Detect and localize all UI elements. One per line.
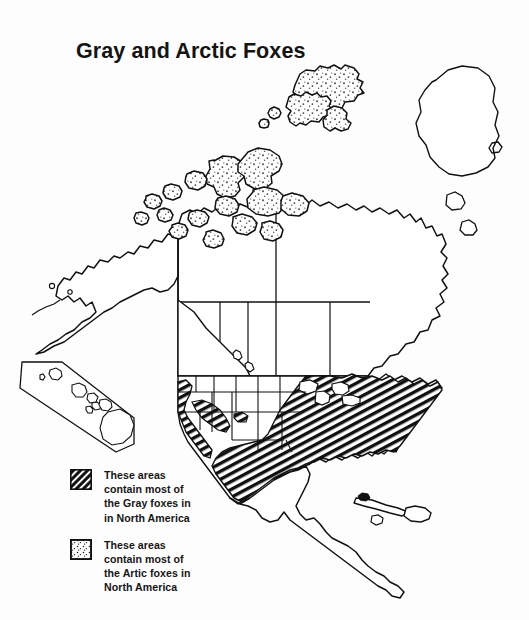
map-legend: These areas contain most of the Gray fox…	[70, 468, 280, 608]
stipple-dot-swatch	[70, 539, 92, 560]
legend-item-gray-fox: These areas contain most of the Gray fox…	[70, 468, 280, 525]
greenland-outline	[416, 66, 502, 235]
legend-label-arctic-fox: These areas contain most of the Artic fo…	[104, 538, 190, 595]
hawaii-inset	[20, 362, 134, 452]
diagonal-hatch-swatch	[70, 469, 92, 490]
legend-label-gray-fox: These areas contain most of the Gray fox…	[104, 468, 191, 525]
legend-item-arctic-fox: These areas contain most of the Artic fo…	[70, 538, 280, 595]
caribbean-islands	[354, 493, 431, 525]
map-page: Gray and Arctic Foxes	[0, 0, 529, 620]
